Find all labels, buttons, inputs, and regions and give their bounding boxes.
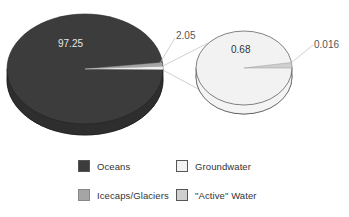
swatch-active-water <box>176 189 188 201</box>
legend-label: "Active" Water <box>195 190 257 201</box>
legend: Oceans Groundwater Icecaps/Glaciers "Act… <box>0 0 349 217</box>
legend-label: Oceans <box>97 161 130 172</box>
legend-label: Icecaps/Glaciers <box>97 190 169 201</box>
legend-item-icecaps: Icecaps/Glaciers <box>78 188 169 202</box>
legend-item-groundwater: Groundwater <box>176 159 251 173</box>
swatch-icecaps <box>78 189 90 201</box>
legend-label: Groundwater <box>195 161 251 172</box>
swatch-groundwater <box>176 160 188 172</box>
legend-item-oceans: Oceans <box>78 159 130 173</box>
legend-item-active-water: "Active" Water <box>176 188 257 202</box>
swatch-oceans <box>78 160 90 172</box>
